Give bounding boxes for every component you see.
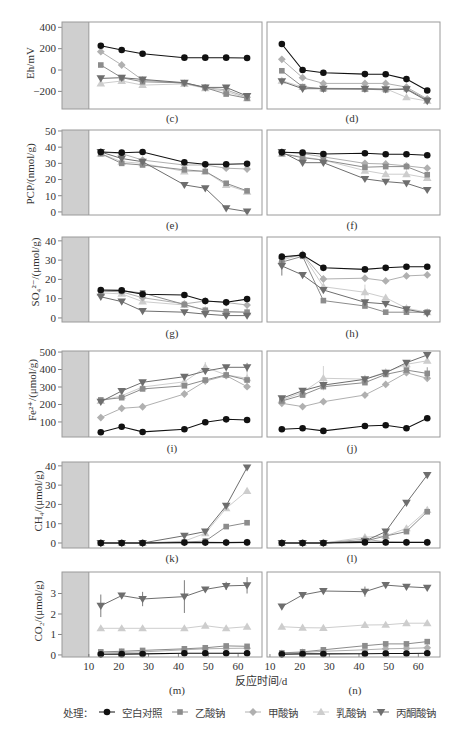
- shaded-preincubation-region: [62, 22, 89, 109]
- circle-marker-icon: [362, 539, 369, 546]
- circle-marker-icon: [244, 160, 251, 167]
- triangle-up-marker-icon: [117, 624, 126, 631]
- diamond-marker-icon: [118, 61, 126, 69]
- diamond-marker-icon: [423, 271, 431, 279]
- diamond-marker-icon: [180, 390, 188, 398]
- series-square: [279, 367, 430, 404]
- diamond-marker-icon: [139, 403, 147, 411]
- circle-marker-icon: [299, 540, 306, 547]
- square-marker-icon: [424, 371, 430, 377]
- panel-c-eh-left: 4002000−200: [62, 22, 262, 109]
- panel-label-j: (j): [347, 442, 357, 454]
- triangle-up-marker-icon: [278, 622, 287, 629]
- square-marker-icon: [383, 309, 389, 315]
- circle-marker-icon: [279, 426, 286, 433]
- x-tick-label: 20: [113, 660, 125, 672]
- square-marker-icon: [244, 188, 250, 194]
- panel-label-m: (m): [169, 684, 185, 696]
- y-tick-label: 20: [45, 173, 57, 185]
- triangle-down-marker-icon: [117, 299, 126, 306]
- circle-marker-icon: [139, 149, 146, 156]
- circle-marker-icon: [279, 253, 286, 260]
- plot-frame: [62, 572, 262, 657]
- circle-marker-icon: [299, 67, 306, 74]
- circle-marker-icon: [118, 149, 125, 156]
- circle-marker-icon: [403, 539, 410, 546]
- diamond-marker-icon: [361, 391, 369, 399]
- panel-label-n: (n): [349, 684, 362, 696]
- plot-frame: [267, 130, 440, 215]
- y-tick-label: 30: [45, 157, 57, 169]
- triangle-down-marker-icon: [138, 379, 147, 386]
- series-line: [282, 254, 427, 312]
- panel-label-g: (g): [166, 327, 179, 339]
- y-tick-label: 30: [45, 479, 57, 491]
- shaded-preincubation-region: [62, 130, 89, 215]
- plot-frame: [62, 462, 262, 548]
- series-circle: [279, 415, 431, 434]
- x-tick-label: 20: [294, 660, 306, 672]
- circle-marker-icon: [223, 299, 230, 306]
- panel-label-d: (d): [346, 112, 359, 124]
- y-tick-label: 20: [45, 273, 57, 285]
- square-marker-icon: [202, 645, 208, 651]
- square-marker-icon: [223, 180, 229, 186]
- square-marker-icon: [424, 172, 430, 178]
- panel-label-l: (l): [347, 552, 357, 564]
- plot-frame: [62, 237, 262, 322]
- panel-label-f: (f): [347, 219, 358, 231]
- panel-h-sulfate-right: [267, 237, 440, 322]
- panel-d-eh-right: [267, 22, 440, 109]
- legend-title: 处理：: [63, 705, 93, 720]
- circle-marker-icon: [320, 265, 327, 272]
- panel-m-co2-left: 3210102030405060: [62, 572, 262, 657]
- circle-marker-icon: [139, 50, 146, 57]
- plot-area: [267, 237, 440, 322]
- diamond-marker-icon: [97, 414, 105, 422]
- series-circle: [98, 416, 251, 436]
- circle-marker-icon: [299, 651, 306, 658]
- circle-marker-icon: [403, 425, 410, 432]
- shaded-preincubation-region: [62, 237, 89, 322]
- triangle-up-marker-icon: [402, 619, 411, 626]
- plot-area: 4002000−200: [62, 22, 262, 109]
- series-triangle-up: [278, 250, 432, 315]
- circle-marker-icon: [223, 539, 230, 546]
- circle-marker-icon: [424, 415, 431, 422]
- square-marker-icon: [404, 641, 410, 647]
- series-triangle-down: [278, 78, 432, 105]
- circle-marker-icon: [382, 539, 389, 546]
- shaded-preincubation-region: [62, 572, 89, 657]
- y-tick-label: 300: [40, 381, 57, 393]
- square-marker-icon: [182, 383, 188, 389]
- x-tick-label: 40: [353, 660, 365, 672]
- plot-frame: [62, 22, 262, 109]
- y-axis-label-ferrous: Fe²⁺/(μmol/g): [26, 359, 39, 421]
- y-tick-label: 2: [51, 608, 57, 620]
- square-marker-icon: [223, 643, 229, 649]
- circle-marker-icon: [320, 428, 327, 435]
- square-marker-icon: [362, 643, 368, 649]
- circle-marker-icon: [362, 423, 369, 430]
- triangle-up-marker-icon: [138, 624, 147, 631]
- panel-f-pcp-right: [267, 130, 440, 215]
- circle-marker-icon: [118, 540, 125, 547]
- triangle-down-marker-icon: [319, 160, 328, 167]
- y-tick-label: 20: [45, 498, 57, 510]
- diamond-marker-icon: [382, 79, 390, 87]
- series-circle: [98, 650, 251, 658]
- plot-frame: [267, 572, 440, 657]
- plot-area: [267, 462, 440, 548]
- legend-label: 丙酮酸钠: [396, 705, 436, 720]
- circle-marker-icon: [98, 287, 105, 294]
- circle-marker-icon: [424, 263, 431, 270]
- triangle-up-marker-icon: [361, 621, 370, 628]
- circle-marker-icon: [202, 650, 209, 657]
- shaded-preincubation-region: [62, 351, 89, 437]
- circle-marker-icon: [382, 650, 389, 657]
- circle-marker-icon: [362, 150, 369, 157]
- legend-item-control: 空白对照: [98, 704, 162, 720]
- square-marker-icon: [202, 169, 208, 175]
- circle-marker-icon: [202, 419, 209, 426]
- square-marker-icon: [177, 709, 183, 715]
